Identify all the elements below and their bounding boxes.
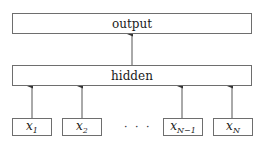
- input-box-xn-minus-1: xN−1: [163, 118, 203, 136]
- hidden-box: hidden: [12, 65, 252, 86]
- output-box: output: [12, 13, 252, 34]
- input-label: xN−1: [170, 119, 196, 135]
- input-box-x2: x2: [62, 118, 102, 136]
- input-label: x1: [26, 119, 38, 135]
- input-box-x1: x1: [12, 118, 52, 136]
- input-box-xn: xN: [213, 118, 253, 136]
- ellipsis: · · ·: [124, 121, 151, 134]
- output-label: output: [112, 18, 152, 30]
- hidden-label: hidden: [111, 70, 153, 82]
- input-label: xN: [226, 119, 240, 135]
- input-label: x2: [76, 119, 88, 135]
